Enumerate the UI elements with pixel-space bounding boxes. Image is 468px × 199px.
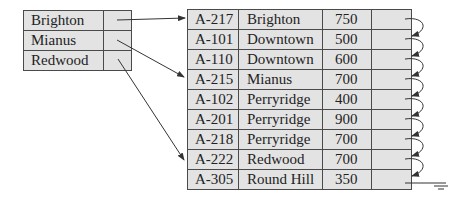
index-key: Mianus (24, 31, 104, 51)
file-record: A-217 Brighton 750 (188, 10, 412, 30)
branch-name: Round Hill (239, 170, 323, 190)
branch-name: Mianus (239, 70, 323, 90)
branch-name: Perryridge (239, 110, 323, 130)
account-number: A-101 (188, 30, 239, 50)
next-pointer-cell (372, 30, 412, 50)
sequential-file-table: A-217 Brighton 750 A-101 Downtown 500 A-… (187, 9, 412, 190)
balance: 350 (323, 170, 372, 190)
balance: 700 (323, 70, 372, 90)
arrow-redwood-icon (118, 59, 184, 160)
balance: 900 (323, 110, 372, 130)
branch-name: Downtown (239, 50, 323, 70)
sparse-index-table: Brighton Mianus Redwood (23, 10, 132, 71)
balance: 750 (323, 10, 372, 30)
account-number: A-201 (188, 110, 239, 130)
branch-name: Brighton (239, 10, 323, 30)
index-pointer-cell (104, 11, 132, 31)
balance: 700 (323, 130, 372, 150)
branch-name: Downtown (239, 30, 323, 50)
branch-name: Perryridge (239, 90, 323, 110)
file-record: A-218 Perryridge 700 (188, 130, 412, 150)
index-key: Brighton (24, 11, 104, 31)
account-number: A-218 (188, 130, 239, 150)
next-pointer-cell (372, 110, 412, 130)
index-pointer-cell (104, 31, 132, 51)
next-pointer-cell (372, 50, 412, 70)
next-pointer-cell (372, 10, 412, 30)
index-entry: Redwood (24, 51, 132, 71)
balance: 500 (323, 30, 372, 50)
balance: 700 (323, 150, 372, 170)
index-pointer-cell (104, 51, 132, 71)
index-entry: Mianus (24, 31, 132, 51)
account-number: A-305 (188, 170, 239, 190)
file-record: A-201 Perryridge 900 (188, 110, 412, 130)
next-pointer-cell (372, 90, 412, 110)
account-number: A-102 (188, 90, 239, 110)
index-entry: Brighton (24, 11, 132, 31)
file-record: A-110 Downtown 600 (188, 50, 412, 70)
file-record: A-101 Downtown 500 (188, 30, 412, 50)
balance: 600 (323, 50, 372, 70)
account-number: A-215 (188, 70, 239, 90)
account-number: A-222 (188, 150, 239, 170)
file-record: A-102 Perryridge 400 (188, 90, 412, 110)
next-pointer-cell (372, 130, 412, 150)
branch-name: Redwood (239, 150, 323, 170)
next-pointer-cell (372, 150, 412, 170)
balance: 400 (323, 90, 372, 110)
branch-name: Perryridge (239, 130, 323, 150)
index-key: Redwood (24, 51, 104, 71)
file-record: A-305 Round Hill 350 (188, 170, 412, 190)
file-record: A-222 Redwood 700 (188, 150, 412, 170)
file-record: A-215 Mianus 700 (188, 70, 412, 90)
account-number: A-110 (188, 50, 239, 70)
account-number: A-217 (188, 10, 239, 30)
next-pointer-cell (372, 170, 412, 190)
next-pointer-cell (372, 70, 412, 90)
